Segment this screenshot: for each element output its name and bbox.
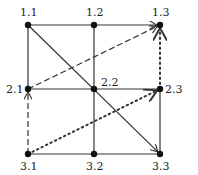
node-2-1 xyxy=(25,86,31,92)
node-2-3 xyxy=(157,86,163,92)
node-2-2 xyxy=(91,86,97,92)
node-label-2-2: 2.2 xyxy=(101,77,119,88)
edge-3-1-to-2-3 xyxy=(28,90,157,154)
node-3-2 xyxy=(91,151,97,157)
node-1-1 xyxy=(25,22,31,28)
grid-graph-diagram: 1.1 1.2 1.3 2.1 2.2 2.3 3.1 3.2 3.3 xyxy=(0,0,198,175)
node-3-3 xyxy=(157,151,163,157)
node-label-1-2: 1.2 xyxy=(86,7,104,18)
node-1-2 xyxy=(91,22,97,28)
node-label-1-1: 1.1 xyxy=(20,7,38,18)
node-label-3-2: 3.2 xyxy=(86,161,104,172)
node-1-3 xyxy=(157,22,163,28)
node-label-1-3: 1.3 xyxy=(152,7,170,18)
edge-2-1-to-1-3 xyxy=(28,26,157,89)
node-3-1 xyxy=(25,151,31,157)
node-label-3-3: 3.3 xyxy=(152,161,170,172)
node-label-2-1: 2.1 xyxy=(6,84,24,95)
node-label-2-3: 2.3 xyxy=(165,84,183,95)
node-label-3-1: 3.1 xyxy=(20,161,38,172)
